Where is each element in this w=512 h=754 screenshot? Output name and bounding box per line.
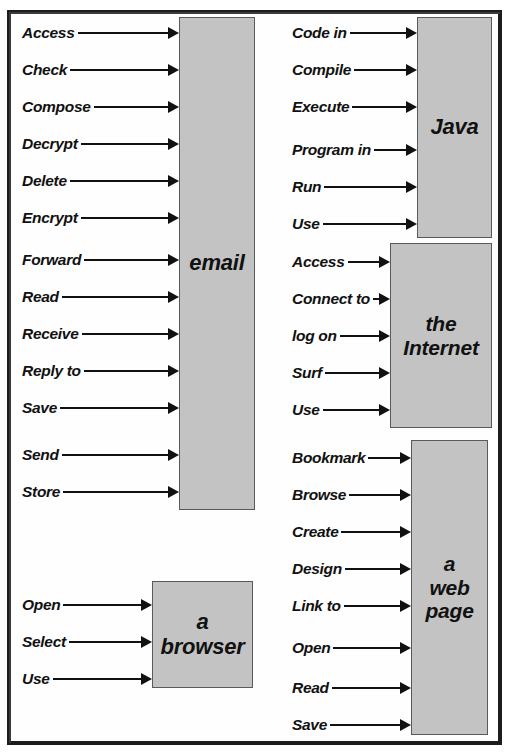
collocate-row-webpage-0: Bookmark bbox=[292, 447, 411, 469]
arrow-icon bbox=[374, 141, 417, 159]
collocate-label: Access bbox=[22, 25, 75, 41]
arrow-icon bbox=[349, 486, 411, 504]
collocate-label: Link to bbox=[292, 598, 341, 614]
collocate-row-internet-3: Surf bbox=[292, 362, 390, 384]
collocate-row-email-11: Send bbox=[22, 444, 179, 466]
arrow-icon bbox=[368, 449, 411, 467]
collocate-row-browser-1: Select bbox=[22, 631, 152, 653]
collocate-label: Reply to bbox=[22, 363, 81, 379]
arrow-icon bbox=[341, 523, 411, 541]
collocate-row-internet-0: Access bbox=[292, 251, 390, 273]
collocate-label: Encrypt bbox=[22, 210, 78, 226]
arrow-icon bbox=[81, 209, 179, 227]
collocate-label: Program in bbox=[292, 142, 371, 158]
arrow-icon bbox=[344, 597, 411, 615]
arrow-icon bbox=[63, 596, 152, 614]
collocate-label: Save bbox=[292, 717, 327, 733]
collocate-row-java-3: Program in bbox=[292, 139, 417, 161]
arrow-icon bbox=[60, 399, 179, 417]
concept-box-java: Java bbox=[417, 17, 492, 238]
concept-label-browser: a browser bbox=[160, 610, 244, 659]
collocate-label: Use bbox=[292, 402, 320, 418]
collocate-row-java-4: Run bbox=[292, 176, 417, 198]
arrow-icon bbox=[62, 446, 179, 464]
collocate-label: Read bbox=[22, 289, 59, 305]
collocate-label: log on bbox=[292, 328, 337, 344]
arrow-icon bbox=[70, 172, 179, 190]
collocate-label: Read bbox=[292, 680, 329, 696]
collocate-label: Surf bbox=[292, 365, 322, 381]
concept-box-internet: the Internet bbox=[390, 243, 492, 428]
collocate-row-webpage-2: Create bbox=[292, 521, 411, 543]
collocate-row-webpage-7: Save bbox=[292, 714, 411, 736]
collocate-row-java-2: Execute bbox=[292, 96, 417, 118]
collocate-label: Design bbox=[292, 561, 342, 577]
collocate-row-email-8: Receive bbox=[22, 323, 179, 345]
collocate-row-email-6: Forward bbox=[22, 249, 179, 271]
collocate-label: Use bbox=[292, 216, 320, 232]
collocate-row-browser-0: Open bbox=[22, 594, 152, 616]
collocate-label: Save bbox=[22, 400, 57, 416]
collocate-label: Store bbox=[22, 484, 60, 500]
collocate-label: Check bbox=[22, 62, 67, 78]
collocate-row-webpage-1: Browse bbox=[292, 484, 411, 506]
collocate-row-email-5: Encrypt bbox=[22, 207, 179, 229]
concept-label-webpage: a web page bbox=[425, 552, 473, 623]
arrow-icon bbox=[82, 325, 179, 343]
collocate-row-email-2: Compose bbox=[22, 96, 179, 118]
concept-label-java: Java bbox=[430, 115, 478, 140]
arrow-icon bbox=[81, 135, 179, 153]
collocate-label: Open bbox=[292, 640, 330, 656]
arrow-icon bbox=[53, 670, 152, 688]
collocate-label: Browse bbox=[292, 487, 346, 503]
collocate-row-webpage-6: Read bbox=[292, 677, 411, 699]
collocate-label: Bookmark bbox=[292, 450, 365, 466]
collocate-row-internet-2: log on bbox=[292, 325, 390, 347]
collocate-row-email-0: Access bbox=[22, 22, 179, 44]
diagram-page: email Access Check Compose Decrypt Delet… bbox=[0, 0, 512, 754]
collocate-label: Access bbox=[292, 254, 345, 270]
arrow-icon bbox=[84, 251, 179, 269]
collocate-label: Compose bbox=[22, 99, 91, 115]
collocate-row-java-5: Use bbox=[292, 213, 417, 235]
collocate-label: Forward bbox=[22, 252, 81, 268]
collocate-label: Create bbox=[292, 524, 338, 540]
arrow-icon bbox=[345, 560, 411, 578]
collocate-row-email-12: Store bbox=[22, 481, 179, 503]
collocate-row-email-4: Delete bbox=[22, 170, 179, 192]
arrow-icon bbox=[63, 483, 179, 501]
arrow-icon bbox=[323, 401, 390, 419]
collocate-row-java-1: Compile bbox=[292, 59, 417, 81]
collocate-row-email-1: Check bbox=[22, 59, 179, 81]
collocate-row-webpage-3: Design bbox=[292, 558, 411, 580]
arrow-icon bbox=[332, 679, 411, 697]
arrow-icon bbox=[78, 24, 180, 42]
collocate-label: Open bbox=[22, 597, 60, 613]
collocate-label: Decrypt bbox=[22, 136, 78, 152]
arrow-icon bbox=[348, 253, 391, 271]
collocate-label: Send bbox=[22, 447, 59, 463]
concept-label-internet: the Internet bbox=[403, 312, 478, 359]
arrow-icon bbox=[330, 716, 411, 734]
arrow-icon bbox=[340, 327, 390, 345]
collocate-row-email-3: Decrypt bbox=[22, 133, 179, 155]
collocate-row-internet-4: Use bbox=[292, 399, 390, 421]
collocate-label: Receive bbox=[22, 326, 79, 342]
collocate-row-email-7: Read bbox=[22, 286, 179, 308]
arrow-icon bbox=[84, 362, 179, 380]
collocate-row-webpage-5: Open bbox=[292, 637, 411, 659]
arrow-icon bbox=[323, 215, 417, 233]
collocate-label: Connect to bbox=[292, 291, 370, 307]
concept-box-browser: a browser bbox=[152, 581, 253, 688]
concept-label-email: email bbox=[189, 251, 244, 276]
arrow-icon bbox=[69, 633, 152, 651]
concept-box-email: email bbox=[179, 17, 255, 510]
arrow-icon bbox=[62, 288, 179, 306]
collocate-row-email-9: Reply to bbox=[22, 360, 179, 382]
arrow-icon bbox=[70, 61, 179, 79]
concept-box-webpage: a web page bbox=[411, 440, 488, 735]
arrow-icon bbox=[354, 61, 417, 79]
collocate-label: Select bbox=[22, 634, 66, 650]
collocate-label: Compile bbox=[292, 62, 351, 78]
arrow-icon bbox=[94, 98, 179, 116]
